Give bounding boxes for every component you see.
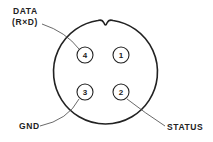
label-gnd: GND xyxy=(19,121,40,131)
pin-3-number: 3 xyxy=(83,88,88,97)
label-status: STATUS xyxy=(167,122,203,132)
pin-2: 2 xyxy=(113,84,129,100)
leader-status xyxy=(127,99,165,126)
pin-1: 1 xyxy=(113,47,129,63)
pin-2-number: 2 xyxy=(119,88,124,97)
connector-shell xyxy=(54,20,158,124)
connector-diagram: 4 1 3 2 DATA (R×D) GND STATUS xyxy=(0,0,213,142)
label-data: DATA xyxy=(13,6,38,16)
label-rxd: (R×D) xyxy=(12,17,38,27)
pin-4: 4 xyxy=(77,47,93,63)
pin-4-number: 4 xyxy=(83,51,88,60)
pin-1-number: 1 xyxy=(119,51,124,60)
pin-3: 3 xyxy=(77,84,93,100)
